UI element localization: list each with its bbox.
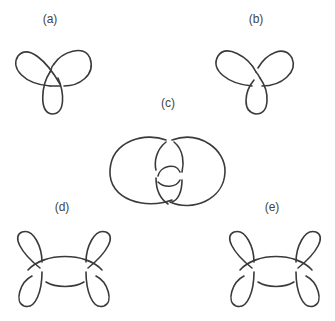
knot-b-strand [216,51,256,86]
knot-c [110,137,225,205]
knot-c-outer-left [110,137,172,204]
knot-b [216,51,293,114]
knot-e-bottom-arc [258,282,294,287]
knot-b-strand [246,78,267,114]
knot-d-right-loop [86,231,110,268]
knot-figure [0,0,335,321]
knot-e-right-loop [296,231,320,268]
knot-e-right-loop [296,272,319,307]
knot-c-inner-left [155,142,166,170]
knot-d [18,231,111,306]
knot-e-left-loop [231,272,254,307]
knot-b-strand [256,72,260,78]
knot-c-twist [158,180,180,186]
knot-c-twist [158,166,180,176]
knot-d-bottom-arc [46,282,84,287]
knot-a-strand [43,72,63,114]
knot-a-strand [16,52,60,86]
knot-a [16,51,91,114]
knot-d-right-loop [86,272,109,307]
knot-e [230,231,321,306]
knot-d-left-loop [19,272,42,307]
knot-b-strand [258,51,293,86]
